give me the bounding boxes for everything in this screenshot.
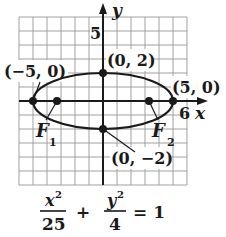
bottom-covertex-label: (0, −2) — [111, 149, 173, 168]
equation-den1: 25 — [42, 214, 66, 234]
left-vertex-label: (−5, 0) — [4, 62, 66, 81]
equation-exp1: 2 — [55, 189, 62, 200]
focus-1-label: F — [35, 120, 50, 141]
equation-den2: 4 — [109, 214, 121, 234]
right-vertex-point — [169, 97, 177, 105]
x-axis-label: x — [194, 103, 206, 123]
equation-num1: x — [44, 191, 55, 210]
equation-equals: = 1 — [133, 202, 165, 222]
x-tick-label: 6 — [179, 104, 190, 123]
focus-1-subscript: 1 — [49, 136, 57, 149]
focus-2-label: F — [151, 120, 166, 141]
y-axis-label: y — [111, 0, 123, 20]
focus-2-point — [145, 97, 153, 105]
focus-1-point — [53, 97, 61, 105]
y-axis-arrow-icon — [99, 3, 107, 14]
equation-exp2: 2 — [117, 189, 124, 200]
top-covertex-point — [99, 69, 107, 77]
right-vertex-label: (5, 0) — [172, 78, 221, 97]
equation-plus: + — [76, 202, 90, 222]
top-covertex-label: (0, 2) — [107, 51, 156, 70]
left-vertex-point — [29, 97, 37, 105]
equation: x 2 25 + y 2 4 = 1 — [40, 189, 165, 234]
y-tick-label: 5 — [90, 24, 101, 43]
bottom-covertex-point — [99, 125, 107, 133]
focus-2-subscript: 2 — [167, 136, 175, 149]
ellipse-graph: y 5 6 x (−5, 0) (0, 2) (5, 0) (0, −2) F … — [0, 0, 226, 237]
